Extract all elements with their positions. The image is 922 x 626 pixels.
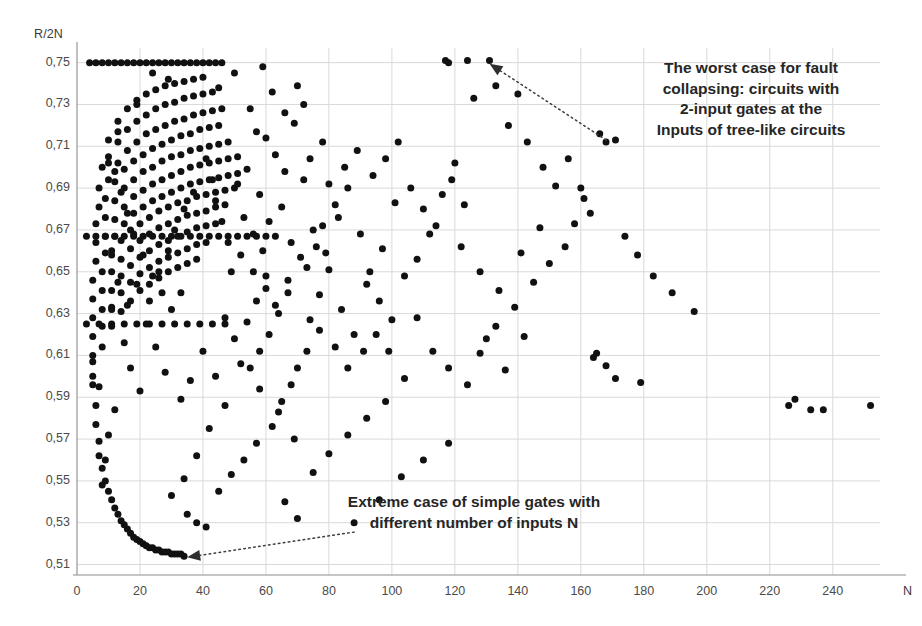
x-tick-label: 240 bbox=[807, 584, 859, 598]
data-point bbox=[451, 160, 458, 167]
data-point bbox=[99, 306, 106, 313]
data-point bbox=[461, 201, 468, 208]
data-point bbox=[111, 168, 118, 175]
y-tick-label: 0,61 bbox=[22, 347, 70, 361]
data-point bbox=[222, 321, 229, 328]
data-point bbox=[105, 137, 112, 144]
data-point bbox=[96, 383, 103, 390]
data-point bbox=[159, 321, 166, 328]
data-point bbox=[212, 189, 219, 196]
data-point bbox=[445, 59, 452, 66]
data-point bbox=[307, 316, 314, 323]
annotation-extreme-case: Extreme case of simple gates with differ… bbox=[316, 492, 632, 533]
data-point bbox=[234, 170, 241, 177]
data-point bbox=[791, 396, 798, 403]
data-point bbox=[222, 201, 229, 208]
data-point bbox=[395, 139, 402, 146]
data-point bbox=[244, 233, 251, 240]
data-point bbox=[159, 193, 166, 200]
data-point bbox=[203, 523, 210, 530]
data-point bbox=[89, 295, 96, 302]
data-point bbox=[168, 189, 175, 196]
data-point bbox=[114, 128, 121, 135]
data-point bbox=[165, 76, 172, 83]
data-point bbox=[92, 59, 99, 66]
data-point bbox=[136, 220, 143, 227]
data-point bbox=[593, 350, 600, 357]
data-point bbox=[121, 339, 128, 346]
data-point bbox=[262, 272, 269, 279]
data-point bbox=[99, 287, 106, 294]
data-point bbox=[168, 172, 175, 179]
annotation-arrowhead bbox=[490, 64, 504, 76]
data-point bbox=[253, 128, 260, 135]
data-point bbox=[300, 176, 307, 183]
data-point bbox=[174, 264, 181, 271]
data-point bbox=[146, 281, 153, 288]
data-point bbox=[388, 316, 395, 323]
data-point bbox=[225, 139, 232, 146]
data-point bbox=[99, 164, 106, 171]
data-point bbox=[181, 59, 188, 66]
data-point bbox=[162, 82, 169, 89]
data-point bbox=[121, 220, 128, 227]
data-point bbox=[102, 214, 109, 221]
data-point bbox=[250, 231, 257, 238]
data-point bbox=[105, 431, 112, 438]
data-point bbox=[338, 306, 345, 313]
data-point bbox=[203, 155, 210, 162]
data-point bbox=[420, 206, 427, 213]
data-point bbox=[351, 331, 358, 338]
data-point bbox=[464, 381, 471, 388]
data-point bbox=[184, 212, 191, 219]
data-point bbox=[155, 59, 162, 66]
data-point bbox=[310, 226, 317, 233]
data-point bbox=[124, 210, 131, 217]
data-point bbox=[99, 465, 106, 472]
data-point bbox=[111, 233, 118, 240]
data-point bbox=[177, 396, 184, 403]
data-point bbox=[92, 233, 99, 240]
data-point bbox=[256, 348, 263, 355]
data-point bbox=[577, 185, 584, 192]
data-point bbox=[174, 249, 181, 256]
data-point bbox=[272, 302, 279, 309]
data-point bbox=[146, 298, 153, 305]
data-point bbox=[439, 191, 446, 198]
data-point bbox=[225, 155, 232, 162]
data-point bbox=[127, 262, 134, 269]
data-point bbox=[105, 176, 112, 183]
data-point bbox=[89, 373, 96, 380]
data-point bbox=[111, 178, 118, 185]
data-point bbox=[105, 160, 112, 167]
data-point bbox=[272, 233, 279, 240]
data-point bbox=[259, 247, 266, 254]
data-point bbox=[272, 151, 279, 158]
data-point bbox=[325, 180, 332, 187]
data-point bbox=[124, 147, 131, 154]
data-point bbox=[108, 268, 115, 275]
data-point bbox=[222, 402, 229, 409]
data-point bbox=[502, 367, 509, 374]
y-tick-label: 0,51 bbox=[22, 557, 70, 571]
data-point bbox=[199, 348, 206, 355]
data-point bbox=[505, 122, 512, 129]
data-point bbox=[190, 111, 197, 118]
data-point bbox=[492, 82, 499, 89]
data-point bbox=[96, 452, 103, 459]
data-point bbox=[181, 116, 188, 123]
data-point bbox=[193, 224, 200, 231]
data-point bbox=[149, 164, 156, 171]
data-point bbox=[89, 352, 96, 359]
data-point bbox=[83, 321, 90, 328]
data-point bbox=[174, 233, 181, 240]
data-point bbox=[275, 310, 282, 317]
data-point bbox=[108, 247, 115, 254]
data-point bbox=[518, 249, 525, 256]
data-point bbox=[92, 258, 99, 265]
data-point bbox=[281, 498, 288, 505]
annotation-worst-case: The worst case for fault collapsing: cir… bbox=[598, 58, 904, 140]
x-axis-title: N bbox=[903, 584, 912, 598]
data-point bbox=[206, 425, 213, 432]
data-point bbox=[215, 488, 222, 495]
